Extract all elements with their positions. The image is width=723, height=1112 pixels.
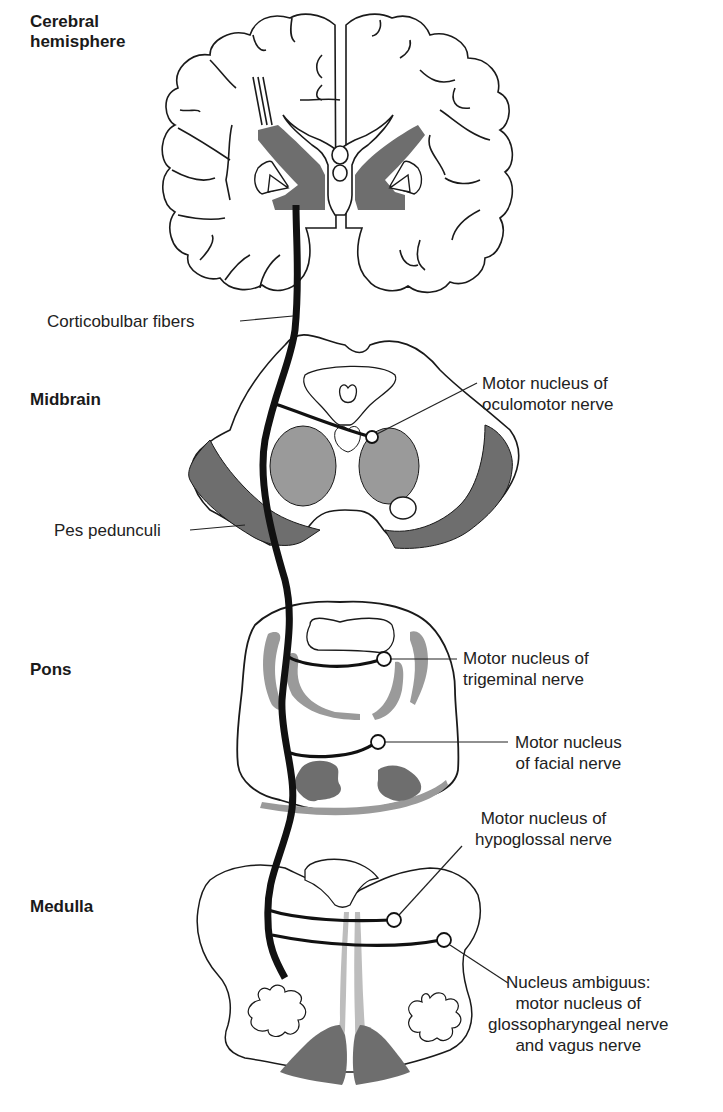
oculomotor-nucleus xyxy=(366,431,378,443)
cerebral-hemisphere-section xyxy=(162,14,512,292)
pons-section xyxy=(237,602,458,816)
label-hypoglossal-nucleus: Motor nucleus of hypoglossal nerve xyxy=(475,808,612,850)
leader-pes-pedunculi xyxy=(190,525,245,530)
label-oculomotor-nucleus: Motor nucleus of oculomotor nerve xyxy=(482,373,613,415)
corticobulbar-tract xyxy=(263,205,298,978)
hypoglossal-nucleus xyxy=(387,913,401,927)
medulla-section xyxy=(197,859,480,1085)
left-hemisphere-outline xyxy=(162,14,336,290)
leader-corticobulbar xyxy=(240,316,293,321)
right-hemisphere-outline xyxy=(346,14,512,292)
midbrain-section xyxy=(189,335,519,549)
facial-nucleus xyxy=(371,735,385,749)
red-nucleus-left xyxy=(270,426,336,506)
label-pes-pedunculi: Pes pedunculi xyxy=(54,520,161,541)
label-corticobulbar-fibers: Corticobulbar fibers xyxy=(47,311,194,332)
label-cerebral-hemisphere: Cerebral hemisphere xyxy=(30,12,125,52)
trigeminal-nucleus xyxy=(377,652,391,666)
label-facial-nucleus: Motor nucleus of facial nerve xyxy=(515,732,622,774)
label-medulla: Medulla xyxy=(30,897,93,917)
label-nucleus-ambiguus: Nucleus ambiguus: motor nucleus of gloss… xyxy=(488,972,669,1056)
label-pons: Pons xyxy=(30,660,72,680)
corticobulbar-pathway-diagram xyxy=(0,0,723,1112)
label-trigeminal-nucleus: Motor nucleus of trigeminal nerve xyxy=(463,648,589,690)
ambiguus-nucleus xyxy=(437,933,451,947)
label-midbrain: Midbrain xyxy=(30,390,101,410)
